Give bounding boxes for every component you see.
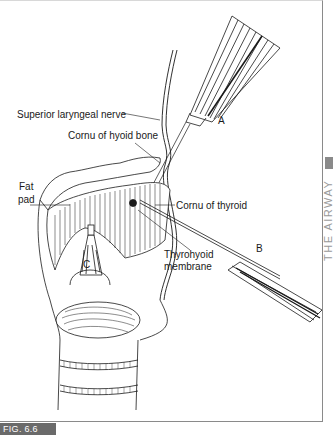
label-thyrohyoid-2: membrane [164,261,212,272]
side-section-title: THE AIRWAY [322,181,333,261]
side-tab-marker [325,157,333,169]
label-cornu-thyroid: Cornu of thyroid [176,200,247,211]
label-needle-b: B [256,243,263,254]
syringe-a-icon [150,16,280,192]
syringe-b-icon [228,262,322,322]
label-thyrohyoid-1: Thyrohyoid [164,249,213,260]
larynx-illustration [0,0,323,422]
label-fat-pad-1: Fat [19,181,33,192]
figure-caption: FIG. 6.6 [0,423,56,435]
label-cornu-hyoid: Cornu of hyoid bone [68,130,158,141]
label-superior-laryngeal-nerve: Superior laryngeal nerve [17,109,126,120]
label-needle-c: C [83,259,90,270]
label-needle-a: A [218,115,225,126]
label-fat-pad-2: pad [18,194,35,205]
